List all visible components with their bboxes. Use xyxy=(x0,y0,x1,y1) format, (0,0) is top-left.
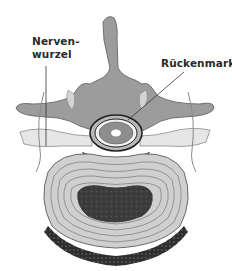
nucleus-pulposus xyxy=(78,186,153,222)
intervertebral-disc xyxy=(44,154,188,248)
nerve-root-label-line1: Nerven- xyxy=(32,35,80,48)
spinal-cord xyxy=(90,115,142,151)
spine-cross-section-diagram: Nerven- wurzel Rückenmark xyxy=(0,0,232,271)
spinal-cord-label: Rückenmark xyxy=(161,57,232,70)
nerve-root-label: Nerven- wurzel xyxy=(32,35,80,61)
nerve-root-label-line2: wurzel xyxy=(32,48,80,61)
